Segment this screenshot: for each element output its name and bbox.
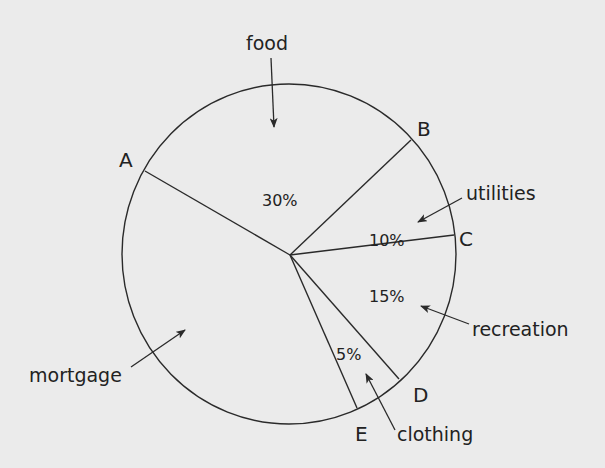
recreation-arrow — [421, 306, 469, 324]
pct-utilities: 10% — [369, 231, 405, 250]
point-b: B — [417, 117, 431, 141]
label-food: food — [246, 32, 288, 54]
pct-food: 30% — [262, 191, 298, 210]
pct-recreation: 15% — [369, 287, 405, 306]
point-a: A — [119, 148, 133, 172]
radius-e — [290, 255, 357, 408]
label-recreation: recreation — [472, 318, 569, 340]
point-d: D — [413, 383, 428, 407]
label-utilities: utilities — [466, 182, 536, 204]
pie-chart: food utilities recreation clothing mortg… — [0, 0, 605, 468]
point-c: C — [459, 227, 473, 251]
label-clothing: clothing — [397, 423, 473, 445]
label-mortgage: mortgage — [29, 364, 122, 386]
pct-clothing: 5% — [336, 345, 361, 364]
radius-a — [145, 171, 290, 255]
mortgage-arrow — [131, 330, 185, 367]
utilities-arrow — [418, 198, 462, 222]
food-arrow — [271, 58, 274, 127]
point-e: E — [355, 422, 368, 446]
